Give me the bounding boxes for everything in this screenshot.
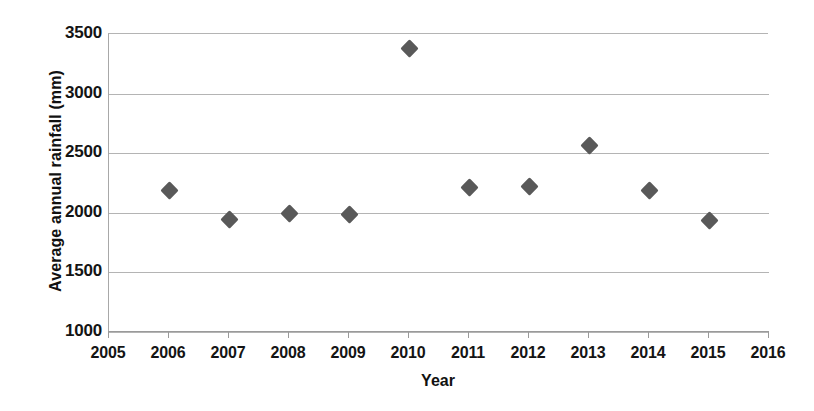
gridline: [109, 272, 769, 273]
data-point-marker: [460, 178, 478, 196]
x-tick-mark: [588, 331, 589, 338]
x-tick-mark: [648, 331, 649, 338]
x-tick-mark: [408, 331, 409, 338]
gridline: [109, 94, 769, 95]
data-point-marker: [520, 177, 538, 195]
x-tick-mark: [228, 331, 229, 338]
data-point-marker: [280, 204, 298, 222]
data-point-marker: [580, 136, 598, 154]
y-tick-label: 3500: [2, 23, 102, 43]
x-tick-label: 2016: [733, 344, 803, 362]
x-tick-mark: [108, 331, 109, 338]
y-tick-label: 3000: [2, 83, 102, 103]
x-tick-mark: [528, 331, 529, 338]
data-point-marker: [700, 211, 718, 229]
x-tick-mark: [468, 331, 469, 338]
x-tick-mark: [288, 331, 289, 338]
plot-area: [108, 33, 768, 331]
y-tick-label: 2500: [2, 142, 102, 162]
data-point-marker: [340, 205, 358, 223]
data-point-marker: [160, 181, 178, 199]
x-axis-line: [108, 331, 769, 332]
gridline: [109, 332, 769, 333]
data-point-marker: [400, 40, 418, 58]
gridline: [109, 153, 769, 154]
scatter-chart: Average annual rainfall (mm) 10001500200…: [0, 0, 814, 411]
data-point-marker: [640, 181, 658, 199]
x-axis-title: Year: [108, 372, 768, 390]
x-tick-mark: [168, 331, 169, 338]
x-tick-mark: [708, 331, 709, 338]
x-tick-mark: [348, 331, 349, 338]
y-tick-label: 1000: [2, 321, 102, 341]
gridline: [109, 213, 769, 214]
y-tick-label: 2000: [2, 202, 102, 222]
x-tick-mark: [768, 331, 769, 338]
y-tick-label: 1500: [2, 261, 102, 281]
